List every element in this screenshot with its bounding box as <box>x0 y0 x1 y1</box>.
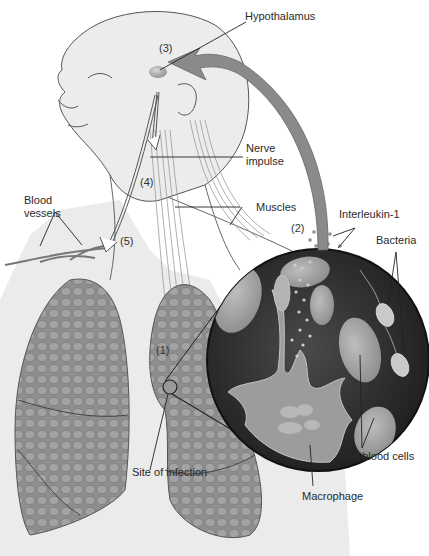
illustration <box>0 0 429 556</box>
infection-site-marker <box>163 380 177 394</box>
label-interleukin: Interleukin-1 <box>339 208 400 221</box>
label-hypothalamus: Hypothalamus <box>245 10 315 23</box>
step-5: (5) <box>120 235 133 247</box>
label-blood-line2: vessels <box>24 207 61 220</box>
step-4: (4) <box>140 176 153 188</box>
label-nerve-line2: impulse <box>246 155 284 168</box>
label-blood-line1: Blood <box>24 194 52 207</box>
step-3: (3) <box>159 42 172 54</box>
label-nerve-line1: Nerve <box>246 142 275 155</box>
fever-diagram: Hypothalamus Nerve impulse Blood vessels… <box>0 0 429 556</box>
label-site-of-infection: Site of infection <box>132 466 207 479</box>
step-2: (2) <box>291 222 304 234</box>
label-red-blood-cells: Red blood cells <box>339 450 414 463</box>
label-bacteria: Bacteria <box>376 234 416 247</box>
label-macrophage: Macrophage <box>302 490 363 503</box>
label-muscles: Muscles <box>256 201 296 214</box>
step-1: (1) <box>156 344 169 356</box>
red-blood-cell <box>310 285 334 325</box>
